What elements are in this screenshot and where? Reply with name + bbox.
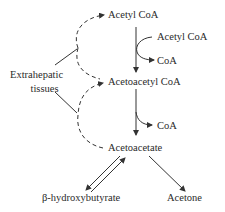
arrow-coa-release-2 bbox=[136, 112, 152, 125]
arrow-bhb-to-acetoacetate bbox=[91, 158, 125, 192]
node-acetoacetate: Acetoacetate bbox=[108, 143, 162, 154]
node-coa-release-2: CoA bbox=[157, 121, 177, 132]
node-beta-hydroxybutyrate: β-hydroxybutyrate bbox=[42, 193, 120, 204]
extrahepatic-tissues-label: Extrahepatic tissues bbox=[10, 70, 63, 94]
connector-lower bbox=[55, 92, 77, 113]
node-acetoacetyl-coa: Acetoacetyl CoA bbox=[108, 77, 181, 88]
connector-upper bbox=[55, 49, 77, 65]
dashed-to-acetylcoa bbox=[76, 15, 104, 48]
node-acetyl-coa-input: Acetyl CoA bbox=[157, 32, 207, 43]
node-acetyl-coa: Acetyl CoA bbox=[108, 10, 158, 21]
node-coa-release-1: CoA bbox=[157, 56, 177, 67]
side-label-line2: tissues bbox=[10, 84, 63, 95]
node-acetone: Acetone bbox=[167, 193, 202, 204]
arrow-acetoacetate-to-acetone bbox=[149, 156, 185, 191]
arrow-acetoacetate-to-bhb bbox=[86, 156, 120, 190]
side-label-line1: Extrahepatic bbox=[10, 70, 63, 81]
dashed-from-acetoacetate bbox=[78, 83, 103, 148]
dashed-to-acetoacetylcoa-upper bbox=[77, 48, 100, 79]
arrow-acetylcoa-input bbox=[137, 37, 154, 60]
